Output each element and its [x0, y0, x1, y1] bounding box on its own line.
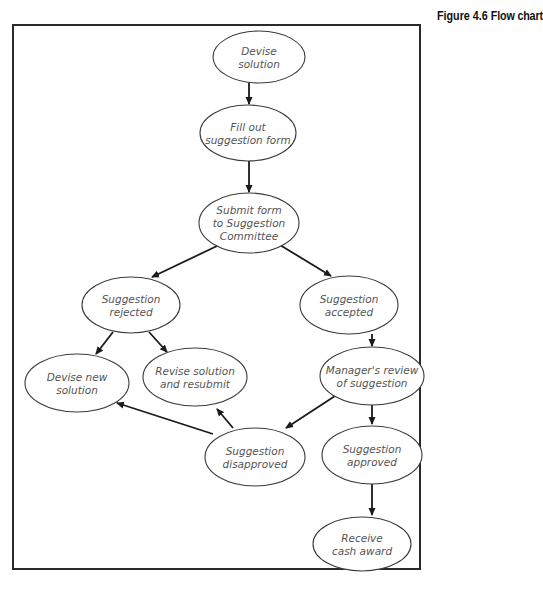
node-label: rejected: [109, 306, 153, 318]
node-label: Revise solution: [155, 365, 235, 377]
node-submit-form: Submit formto SuggestionCommittee: [199, 193, 299, 253]
node-label: disapproved: [223, 458, 288, 470]
node-suggestion-rejected: Suggestionrejected: [82, 277, 180, 333]
node-devise-solution: Devisesolution: [213, 31, 305, 83]
node-label: Devise new: [47, 371, 108, 383]
node-label: Suggestion: [226, 445, 285, 457]
node-label: Committee: [220, 230, 278, 242]
node-fill-out-form: Fill outsuggestion form: [200, 105, 296, 161]
node-label: suggestion form: [205, 134, 291, 146]
node-label: Fill out: [230, 121, 266, 133]
node-suggestion-approved: Suggestionapproved: [322, 426, 422, 484]
arrow-manager-review-to-suggestion-disapproved: [286, 396, 335, 428]
arrow-line: [280, 245, 331, 276]
arrow-submit-form-to-suggestion-accepted: [280, 245, 331, 276]
arrow-submit-form-to-suggestion-rejected: [152, 246, 217, 277]
node-suggestion-disapproved: Suggestiondisapproved: [205, 428, 305, 486]
node-label: Receive: [341, 532, 383, 544]
arrow-suggestion-disapproved-to-devise-new-solution: [117, 403, 213, 434]
arrow-line: [152, 246, 217, 277]
arrow-line: [96, 332, 113, 354]
node-label: Suggestion: [320, 293, 379, 305]
node-manager-review: Manager's reviewof suggestion: [320, 347, 424, 405]
node-label: approved: [347, 456, 397, 468]
arrow-line: [149, 332, 167, 352]
arrow-line: [117, 403, 213, 434]
node-label: of suggestion: [337, 377, 408, 389]
arrow-suggestion-disapproved-to-revise-resubmit: [217, 409, 233, 428]
node-label: cash award: [332, 545, 392, 557]
node-revise-resubmit: Revise solutionand resubmit: [143, 348, 247, 406]
node-label: Suggestion: [102, 293, 161, 305]
arrow-line: [217, 409, 233, 428]
node-label: accepted: [325, 306, 374, 318]
node-label: solution: [238, 58, 280, 70]
node-label: to Suggestion: [213, 217, 286, 229]
node-label: Devise: [241, 45, 277, 57]
node-label: solution: [56, 384, 98, 396]
node-suggestion-accepted: Suggestionaccepted: [300, 276, 398, 334]
node-receive-cash-award: Receivecash award: [313, 517, 411, 571]
arrow-suggestion-rejected-to-devise-new-solution: [96, 332, 113, 354]
node-label: Submit form: [216, 204, 281, 216]
arrow-line: [286, 396, 335, 428]
arrow-suggestion-rejected-to-revise-resubmit: [149, 332, 167, 352]
node-label: Manager's review: [326, 364, 419, 376]
nodes-layer: DevisesolutionFill outsuggestion formSub…: [25, 31, 424, 571]
node-label: Suggestion: [343, 443, 402, 455]
node-label: and resubmit: [160, 378, 231, 390]
node-devise-new-solution: Devise newsolution: [25, 354, 129, 412]
